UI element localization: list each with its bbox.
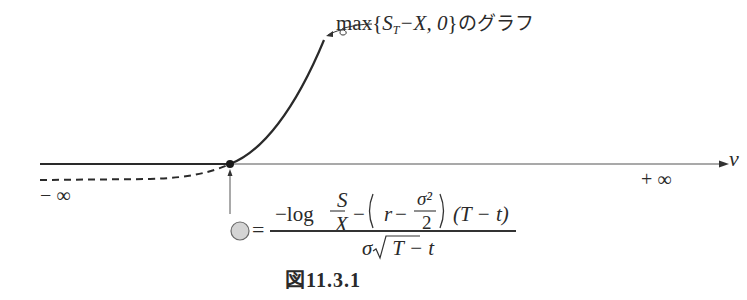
neg-log: −log <box>275 202 314 227</box>
formula-numerator: −log S X − r − σ² 2 (T − t) <box>275 188 515 228</box>
curve-label-open-brace: { <box>372 11 382 35</box>
gray-circle-marker <box>231 222 249 240</box>
r: r <box>384 202 392 227</box>
positive-infinity-label: + ∞ <box>641 169 672 189</box>
payoff-curve <box>230 40 324 164</box>
minus-1: − <box>353 202 365 227</box>
fraction-bar <box>270 230 516 232</box>
sqrt-content: T − t <box>392 236 434 260</box>
sigma: σ <box>362 236 372 260</box>
curve-label-suffix: のグラフ <box>458 12 534 34</box>
pointer-arrowhead-icon <box>228 169 233 176</box>
curve-label-max: max <box>336 11 372 35</box>
dashed-curve <box>40 164 230 180</box>
curve-label-close-brace: } <box>447 11 457 35</box>
negative-infinity-label: − ∞ <box>40 185 71 205</box>
axis-arrowhead-icon <box>719 161 729 168</box>
frac-s: S <box>337 188 348 213</box>
curve-label-minus-x: −X, 0 <box>399 11 447 35</box>
curve-label: max{ST−X, 0}のグラフ <box>336 13 534 36</box>
axis-variable-label: v <box>729 148 739 170</box>
figure-caption: 図11.3.1 <box>285 270 361 290</box>
equals-sign: = <box>252 219 264 241</box>
minus-2: − <box>395 202 407 227</box>
curve-label-s: S <box>382 11 393 35</box>
leader-arrowhead-icon <box>326 31 333 37</box>
sigma-squared: σ² <box>417 188 432 210</box>
time-term: (T − t) <box>453 202 509 227</box>
kink-point <box>226 160 234 168</box>
frac-x: X <box>335 212 348 237</box>
formula-denominator: σT − t <box>362 236 434 261</box>
